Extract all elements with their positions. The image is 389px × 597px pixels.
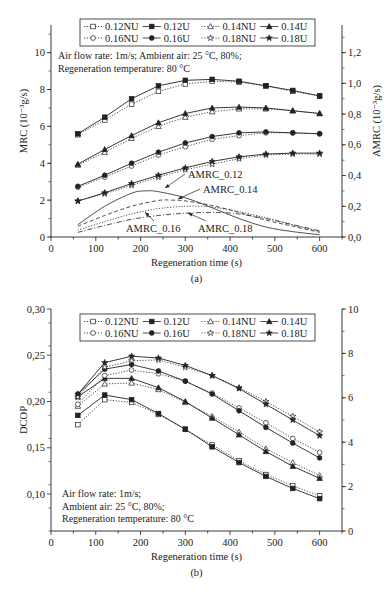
y-tick-label: 8 bbox=[40, 84, 45, 95]
data-series bbox=[75, 375, 322, 480]
marker-square-icon bbox=[290, 486, 295, 491]
marker-star-icon bbox=[317, 433, 323, 439]
y-axis-label: MRC (10⁻³g/s) bbox=[18, 88, 30, 153]
legend-label: 0.12U bbox=[164, 21, 190, 32]
marker-star-icon bbox=[317, 150, 323, 156]
marker-star-icon bbox=[290, 150, 296, 156]
y2-tick-label: 0,4 bbox=[348, 170, 362, 181]
x-tick-label: 100 bbox=[88, 243, 104, 254]
legend-label: 0.12U bbox=[164, 316, 190, 327]
amrc-annotation: AMRC_0.16 bbox=[126, 212, 181, 234]
arrow-head-icon bbox=[165, 184, 170, 188]
x-tick-label: 600 bbox=[312, 537, 328, 548]
marker-square-icon bbox=[156, 89, 161, 94]
y2-tick-label: 2 bbox=[348, 481, 353, 492]
marker-circle-icon bbox=[91, 36, 96, 41]
marker-square-icon bbox=[129, 102, 134, 107]
marker-square-icon bbox=[317, 94, 322, 99]
data-series bbox=[75, 368, 322, 455]
marker-circle-icon bbox=[237, 130, 242, 135]
marker-circle-icon bbox=[149, 36, 154, 41]
legend-label: 0.16NU bbox=[105, 33, 139, 44]
data-series bbox=[76, 397, 322, 498]
marker-triangle-icon bbox=[183, 399, 189, 404]
data-series bbox=[75, 380, 322, 478]
marker-triangle-icon bbox=[75, 161, 81, 166]
y-tick-label: 6 bbox=[40, 121, 45, 132]
legend-label: 0.14NU bbox=[223, 21, 257, 32]
amrc-label: AMRC_0.18 bbox=[198, 223, 253, 234]
legend-label: 0.14U bbox=[281, 316, 307, 327]
marker-square-icon bbox=[91, 24, 96, 29]
figure: 010020030040050060002468100,00,20,40,60,… bbox=[0, 0, 389, 597]
marker-circle-icon bbox=[183, 379, 188, 384]
x-tick-label: 500 bbox=[267, 243, 283, 254]
marker-square-icon bbox=[129, 96, 134, 101]
y2-tick-label: 0,8 bbox=[348, 109, 361, 120]
annotation-text: Regeneration temperature: 80 °C bbox=[62, 513, 194, 524]
y-tick-label: 0 bbox=[40, 232, 45, 243]
y-axis-label: DCOP bbox=[18, 406, 29, 434]
x-tick-label: 100 bbox=[88, 537, 104, 548]
arrow-head-icon bbox=[188, 213, 193, 216]
legend-label: 0.16U bbox=[164, 33, 190, 44]
marker-circle-icon bbox=[210, 134, 215, 139]
marker-square-icon bbox=[237, 79, 242, 84]
marker-circle-icon bbox=[91, 331, 96, 336]
legend-label: 0.16U bbox=[164, 328, 190, 339]
figure-caption: (b) bbox=[190, 567, 203, 579]
marker-square-icon bbox=[76, 413, 81, 418]
legend-label: 0.18U bbox=[281, 33, 307, 44]
y-tick-label: 0,25 bbox=[27, 350, 45, 361]
marker-circle-icon bbox=[75, 184, 80, 189]
y-tick-label: 10 bbox=[35, 47, 46, 58]
marker-triangle-icon bbox=[102, 147, 108, 152]
marker-triangle-icon bbox=[129, 133, 135, 138]
marker-square-icon bbox=[183, 427, 188, 432]
annotation-text: Air flow rate: 1m/s; Ambient air: 25 °C,… bbox=[58, 50, 242, 61]
marker-square-icon bbox=[290, 88, 295, 93]
marker-circle-icon bbox=[317, 131, 322, 136]
marker-circle-icon bbox=[129, 161, 134, 166]
chart-panel-a: 010020030040050060002468100,00,20,40,60,… bbox=[18, 19, 383, 285]
marker-star-icon bbox=[75, 198, 81, 204]
series-line bbox=[78, 395, 320, 499]
annotation-text: Ambient air: 25 °C, 80%; bbox=[62, 501, 165, 512]
y2-tick-label: 10 bbox=[348, 304, 359, 315]
data-series bbox=[75, 353, 323, 438]
annotation-text: Air flow rate: 1m/s; bbox=[62, 488, 141, 499]
amrc-label: AMRC_0.14 bbox=[203, 184, 258, 195]
marker-circle-icon bbox=[183, 141, 188, 146]
marker-square-icon bbox=[264, 474, 269, 479]
marker-circle-icon bbox=[290, 130, 295, 135]
x-tick-label: 400 bbox=[222, 243, 238, 254]
x-tick-label: 200 bbox=[133, 537, 149, 548]
marker-circle-icon bbox=[317, 456, 322, 461]
series-line bbox=[78, 109, 320, 165]
legend-label: 0.18NU bbox=[223, 328, 257, 339]
y2-tick-label: 0,6 bbox=[348, 139, 361, 150]
y2-tick-label: 6 bbox=[348, 392, 353, 403]
legend-label: 0.18NU bbox=[223, 33, 257, 44]
marker-square-icon bbox=[210, 445, 215, 450]
marker-circle-icon bbox=[263, 420, 268, 425]
legend-label: 0.12NU bbox=[105, 316, 139, 327]
amrc-annotation: AMRC_0.18 bbox=[188, 213, 253, 234]
marker-circle-icon bbox=[263, 130, 268, 135]
marker-square-icon bbox=[76, 422, 81, 427]
data-series bbox=[75, 362, 322, 460]
marker-circle-icon bbox=[237, 408, 242, 413]
marker-star-icon bbox=[209, 372, 215, 378]
data-series bbox=[75, 357, 323, 435]
x-tick-label: 300 bbox=[177, 537, 193, 548]
legend-label: 0.14NU bbox=[223, 316, 257, 327]
marker-star-icon bbox=[263, 151, 269, 157]
marker-square-icon bbox=[102, 393, 107, 398]
y-tick-label: 0,20 bbox=[27, 396, 45, 407]
amrc-label: AMRC_0.16 bbox=[126, 223, 181, 234]
marker-square-icon bbox=[183, 78, 188, 83]
figure-caption: (a) bbox=[191, 273, 203, 285]
marker-square-icon bbox=[76, 131, 81, 136]
marker-circle-icon bbox=[263, 425, 268, 430]
marker-circle-icon bbox=[102, 173, 107, 178]
